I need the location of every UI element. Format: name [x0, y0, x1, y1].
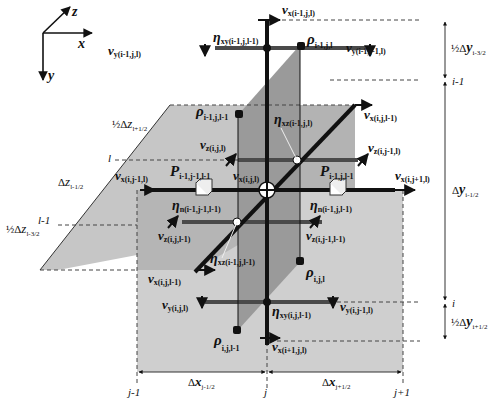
label-j-plus-1: j+1 — [392, 386, 410, 398]
label-vx-i-jp1-l: vx(i,j+1,l) — [395, 168, 430, 184]
label-eta-xy-im1-j-lm1: ηxy(i-1,j,l-1) — [213, 30, 259, 46]
svg-text:½Δyi+1/2: ½Δyi+1/2 — [451, 314, 488, 331]
eta-xy-node-bottom — [263, 298, 271, 306]
axis-z-label: z — [71, 4, 78, 19]
label-l: l — [108, 152, 111, 164]
label-j-minus-1: j-1 — [126, 386, 140, 398]
svg-text:½Δyi-3/2: ½Δyi-3/2 — [451, 40, 486, 57]
label-vz-i-jm1-l: vz(i,j-1,l) — [368, 140, 401, 156]
dim-half-dy-i-m32: ½Δyi-3/2 — [451, 40, 486, 57]
svg-text:Δzl-1/2: Δzl-1/2 — [58, 174, 84, 191]
dim-half-dz-l-m32: ½Δzl-3/2 — [6, 221, 40, 238]
axis-x-label: x — [77, 36, 85, 51]
dim-dx-j-m12: Δxj-1/2 — [188, 374, 215, 391]
dim-half-dz-l-p12: ½Δzl+1/2 — [112, 116, 148, 133]
staggered-grid-diagram: z x y i-1 i j-1 j j+1 l l-1 ½Δyi-3/2 Δyi… — [0, 0, 489, 400]
svg-text:Δxj+1/2: Δxj+1/2 — [322, 374, 351, 391]
label-vx-i-j-lm1-top: vx(i,j,l-1) — [364, 107, 397, 123]
label-vx-im1-j-l: vx(i-1,j,l) — [282, 2, 315, 18]
dim-dx-j-p12: Δxj+1/2 — [322, 374, 351, 391]
svg-text:½Δzl+1/2: ½Δzl+1/2 — [112, 116, 148, 133]
dim-dz-l-m12: Δzl-1/2 — [58, 174, 84, 191]
axis-y-label: y — [46, 68, 55, 83]
label-l-minus-1: l-1 — [38, 214, 50, 226]
svg-text:Δyi-1/2: Δyi-1/2 — [452, 182, 479, 199]
center-node — [259, 182, 275, 198]
svg-text:½Δzl-3/2: ½Δzl-3/2 — [6, 221, 40, 238]
eta-xy-node-top — [263, 44, 271, 52]
label-j: j — [262, 386, 267, 398]
label-vy-im1-jm1-l: vy(i-1,j-1,l) — [346, 40, 386, 56]
svg-text:Δxj-1/2: Δxj-1/2 — [188, 374, 215, 391]
label-i-minus-1: i-1 — [452, 75, 464, 87]
dim-half-dy-i-p12: ½Δyi+1/2 — [451, 314, 488, 331]
label-vy-im1-j-l: vy(i-1,j,l) — [108, 43, 141, 59]
dim-dy-i-m12: Δyi-1/2 — [452, 182, 479, 199]
label-i: i — [452, 297, 455, 309]
